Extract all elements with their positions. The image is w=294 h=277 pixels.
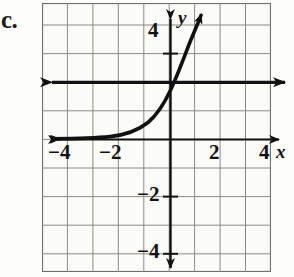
y-tick-label-pos4: 4 [148,20,159,41]
graph-overlay [0,0,294,277]
x-tick-label-pos4: 4 [259,142,270,163]
y-axis-name-label: y [178,8,186,27]
x-axis-name-label: x [276,142,286,161]
x-tick-label-neg4: −4 [48,142,70,163]
x-tick-label-neg2: −2 [99,142,121,163]
exponential-curve [52,14,202,139]
x-tick-label-pos2: 2 [209,142,220,163]
y-tick-label-neg4: −4 [137,241,159,262]
y-tick-label-neg2: −2 [137,184,159,205]
